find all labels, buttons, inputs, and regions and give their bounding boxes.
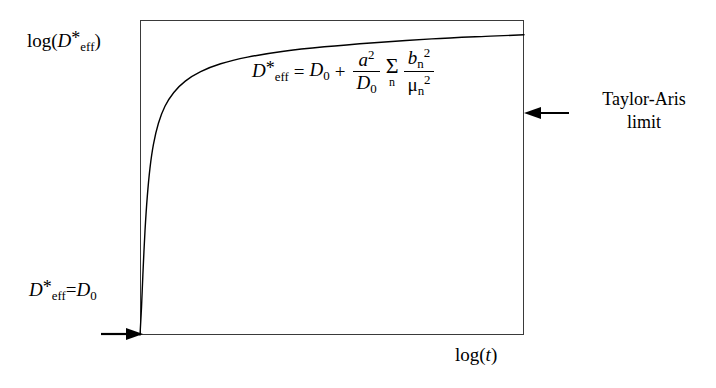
fraction-denominator-mun2: μn2 xyxy=(404,71,433,97)
y-axis-label-suffix: ) xyxy=(94,30,100,51)
initial-value-label: D*eff=D0 xyxy=(29,278,97,303)
x-axis-label-prefix: log( xyxy=(455,344,486,365)
fraction-numerator-bn2: bn2 xyxy=(405,46,433,71)
x-axis-label: log(t) xyxy=(455,345,497,364)
initial-value-sub: eff xyxy=(52,288,66,303)
initial-value-star: * xyxy=(43,277,52,297)
fraction-denominator-D-base: D xyxy=(356,72,370,93)
fraction-numerator-a-sup: 2 xyxy=(368,47,374,62)
y-axis-label-prefix: log( xyxy=(27,30,58,51)
fraction-numerator-a2: a2 xyxy=(356,48,378,71)
equation: D*eff = D0 + a2 D0 Σ n bn2 μn2 xyxy=(252,46,437,97)
y-axis-label: log(D*eff) xyxy=(27,29,101,54)
fraction-numerator-a-base: a xyxy=(359,49,369,70)
equation-plus: + xyxy=(330,62,351,81)
x-axis-label-suffix: ) xyxy=(491,344,497,365)
fraction-numerator-b-sup: 2 xyxy=(424,45,430,60)
fraction-denominator-D0: D0 xyxy=(353,71,379,95)
dispersion-figure: log(D*eff) log(t) D*eff = D0 + a2 D0 Σ n… xyxy=(0,0,716,388)
taylor-aris-line1: Taylor-Aris xyxy=(574,88,714,111)
equation-lhs-star: * xyxy=(266,58,275,78)
summation-symbol-group: Σ n xyxy=(386,55,399,88)
taylor-aris-line2: limit xyxy=(574,111,714,134)
equation-term1: D0 xyxy=(310,60,330,83)
equation-fraction-a2-over-D0: a2 D0 xyxy=(353,48,379,95)
taylor-aris-arrow xyxy=(524,107,569,119)
initial-value-term-base: D xyxy=(77,279,91,300)
initial-value-arrow xyxy=(101,328,143,340)
y-axis-label-base: D xyxy=(58,30,72,51)
equation-lhs-sub: eff xyxy=(275,69,289,84)
initial-value-base: D xyxy=(29,279,43,300)
equation-equals: = xyxy=(289,62,310,81)
equation-term1-base: D xyxy=(310,59,324,80)
initial-value-equals: = xyxy=(66,279,77,300)
taylor-aris-limit-label: Taylor-Aris limit xyxy=(574,88,714,133)
equation-fraction-bn2-over-mun2: bn2 μn2 xyxy=(404,46,433,97)
summation-index: n xyxy=(389,77,395,89)
fraction-denominator-mu-base: μ xyxy=(407,74,417,95)
sigma-icon: Σ xyxy=(386,55,399,77)
fraction-numerator-b-base: b xyxy=(408,47,418,68)
fraction-denominator-mu-sup: 2 xyxy=(424,72,430,87)
equation-lhs-base: D xyxy=(252,60,266,81)
equation-lhs: D*eff xyxy=(252,59,289,84)
initial-value-term-sub: 0 xyxy=(90,288,96,303)
y-axis-label-sub: eff xyxy=(80,39,94,54)
fraction-denominator-D-sub: 0 xyxy=(370,81,376,96)
y-axis-label-star: * xyxy=(71,28,80,48)
